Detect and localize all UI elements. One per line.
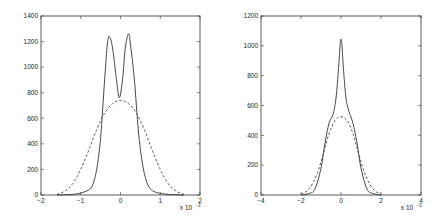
axes-frame [261,16,421,195]
y-tick-label: 800 [27,89,38,96]
y-tick-label: 800 [247,72,258,79]
solid-curve [57,34,184,195]
dashed-curve [57,100,184,194]
x-axis-multiplier: x 10 [401,204,414,211]
y-tick-label: 200 [247,161,258,168]
y-tick-label: 1400 [24,12,39,19]
x-tick-label: −4 [257,197,265,204]
dashed-curve [301,117,381,195]
y-tick-label: 200 [27,166,38,173]
figure-canvas: 0200400600800100012001400−2−1012x 10−3 0… [0,0,445,220]
y-tick-label: 600 [247,102,258,109]
x-axis-exponent: −3 [195,203,201,208]
y-tick-label: 400 [247,132,258,139]
axes-frame [41,16,200,195]
y-tick-label: 400 [27,140,38,147]
x-tick-label: −1 [77,197,85,204]
y-tick-label: 1200 [244,12,259,19]
x-tick-label: −2 [297,197,305,204]
y-tick-label: 1000 [244,42,259,49]
y-tick-label: 600 [27,115,38,122]
left-plot: 0200400600800100012001400−2−1012x 10−3 [24,12,203,211]
x-tick-label: 0 [339,197,343,204]
right-plot: 020040060080010001200−4−2024x 10−3 [244,12,424,211]
x-axis-exponent: −3 [416,203,422,208]
x-tick-label: −2 [37,197,45,204]
x-axis-multiplier: x 10 [180,204,193,211]
x-tick-label: 0 [119,197,123,204]
x-tick-label: 1 [158,197,162,204]
x-tick-label: 2 [379,197,383,204]
y-tick-label: 1000 [24,63,39,70]
y-tick-label: 1200 [24,38,39,45]
